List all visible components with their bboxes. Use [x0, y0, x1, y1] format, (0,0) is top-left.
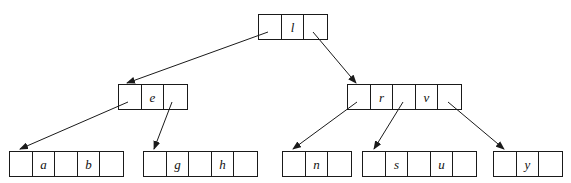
node-key-cell: l: [282, 15, 304, 39]
node-pointer-cell: [164, 85, 187, 109]
node-pointer-cell: [328, 152, 351, 176]
node-key-cell: e: [142, 85, 164, 109]
node-key-cell: n: [306, 152, 328, 176]
node-pointer-cell: [55, 152, 78, 176]
node-pointer-cell: [494, 152, 517, 176]
node-pointer-cell: [100, 152, 123, 176]
tree-edge-arrow: [127, 32, 268, 83]
node-pointer-cell: [453, 152, 476, 176]
node-pointer-cell: [189, 152, 212, 176]
node-key-cell: v: [416, 85, 438, 109]
node-pointer-cell: [119, 85, 142, 109]
node-key-cell: r: [371, 85, 393, 109]
node-key-cell: b: [78, 152, 100, 176]
node-pointer-cell: [304, 15, 327, 39]
node-pointer-cell: [438, 85, 461, 109]
node-key-cell: s: [386, 152, 408, 176]
node-pointer-cell: [144, 152, 167, 176]
node-pointer-cell: [234, 152, 257, 176]
node-pointer-cell: [348, 85, 371, 109]
node-pointer-cell: [259, 15, 282, 39]
btree-node-leaf-n: n: [282, 151, 352, 177]
node-pointer-cell: [283, 152, 306, 176]
node-pointer-cell: [539, 152, 562, 176]
node-pointer-cell: [10, 152, 33, 176]
btree-node-internal-right: rv: [347, 84, 462, 110]
btree-node-root: l: [258, 14, 328, 40]
node-pointer-cell: [363, 152, 386, 176]
node-key-cell: u: [431, 152, 453, 176]
btree-node-leaf-y: y: [493, 151, 563, 177]
node-pointer-cell: [393, 85, 416, 109]
node-pointer-cell: [408, 152, 431, 176]
node-key-cell: g: [167, 152, 189, 176]
btree-node-leaf-gh: gh: [143, 151, 258, 177]
node-key-cell: h: [212, 152, 234, 176]
tree-edge-arrow: [20, 102, 128, 149]
node-key-cell: a: [33, 152, 55, 176]
node-key-cell: y: [517, 152, 539, 176]
btree-node-leaf-su: su: [362, 151, 477, 177]
btree-node-internal-left: e: [118, 84, 188, 110]
btree-node-leaf-ab: ab: [9, 151, 124, 177]
btree-diagram: lervabghnsuy: [0, 0, 571, 183]
